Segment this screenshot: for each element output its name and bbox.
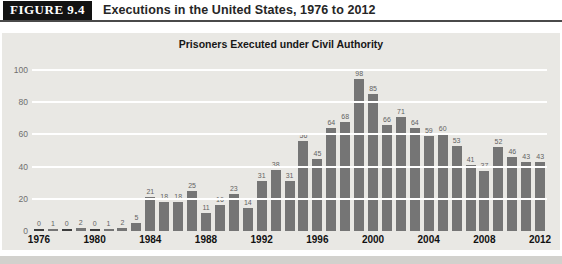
bar-value-label-1981: 1 bbox=[107, 220, 111, 228]
chart-panel: Prisoners Executed under Civil Authority… bbox=[2, 33, 560, 250]
bar-1979 bbox=[76, 228, 86, 231]
x-axis-tick-label-1980: 1980 bbox=[84, 234, 106, 245]
bar-value-label-1982: 2 bbox=[121, 219, 125, 227]
bar-2009 bbox=[493, 147, 503, 231]
bar-col-2002: 71 bbox=[394, 70, 408, 231]
figure-number-badge: FIGURE 9.4 bbox=[3, 1, 92, 20]
figure-title: Executions in the United States, 1976 to… bbox=[103, 3, 376, 17]
bar-1984 bbox=[145, 197, 155, 231]
bar-2008 bbox=[479, 171, 489, 231]
bar-col-1992: 31 bbox=[255, 70, 269, 231]
bar-value-label-1978: 0 bbox=[65, 220, 69, 228]
bar-2006 bbox=[452, 146, 462, 231]
bar-col-1987: 25 bbox=[185, 70, 199, 231]
y-axis-tick-label-60: 60 bbox=[2, 129, 28, 139]
x-axis-tick-label-1984: 1984 bbox=[139, 234, 161, 245]
bar-col-2003: 64 bbox=[408, 70, 422, 231]
bar-col-2000: 85 bbox=[366, 70, 380, 231]
bar-value-label-1999: 98 bbox=[355, 70, 363, 78]
bar-value-label-1998: 68 bbox=[341, 113, 349, 121]
bar-value-label-1991: 14 bbox=[244, 199, 252, 207]
bar-1994 bbox=[285, 181, 295, 231]
bar-col-1977: 1 bbox=[46, 70, 60, 231]
bar-col-1978: 0 bbox=[60, 70, 74, 231]
bar-col-2011: 43 bbox=[519, 70, 533, 231]
y-axis-tick-label-80: 80 bbox=[2, 97, 28, 107]
bar-col-2005: 60 bbox=[436, 70, 450, 231]
bar-1981 bbox=[104, 229, 114, 231]
bar-1989 bbox=[215, 205, 225, 231]
bar-1997 bbox=[326, 128, 336, 231]
chart-title: Prisoners Executed under Civil Authority bbox=[2, 38, 560, 50]
bar-col-1991: 14 bbox=[241, 70, 255, 231]
bar-1986 bbox=[173, 202, 183, 231]
bar-value-label-1990: 23 bbox=[230, 185, 238, 193]
bar-col-1993: 38 bbox=[269, 70, 283, 231]
bar-col-1985: 18 bbox=[157, 70, 171, 231]
bar-col-2008: 37 bbox=[478, 70, 492, 231]
bar-value-label-2009: 52 bbox=[494, 138, 502, 146]
bar-1996 bbox=[312, 159, 322, 231]
bar-value-label-1977: 1 bbox=[51, 220, 55, 228]
bar-col-2010: 46 bbox=[505, 70, 519, 231]
gridline-20 bbox=[32, 198, 547, 200]
bar-series: 0102012521181825111623143138315645646898… bbox=[32, 70, 547, 231]
bar-value-label-2012: 43 bbox=[536, 153, 544, 161]
gridline-40 bbox=[32, 166, 547, 168]
bar-1992 bbox=[257, 181, 267, 231]
bar-col-1999: 98 bbox=[352, 70, 366, 231]
bar-value-label-1992: 31 bbox=[258, 172, 266, 180]
bar-col-1994: 31 bbox=[283, 70, 297, 231]
bar-1993 bbox=[271, 170, 281, 231]
bar-value-label-2003: 64 bbox=[411, 119, 419, 127]
bar-2012 bbox=[535, 162, 545, 231]
gridline-60 bbox=[32, 133, 547, 135]
bar-1987 bbox=[187, 191, 197, 231]
bar-col-1998: 68 bbox=[338, 70, 352, 231]
bar-2000 bbox=[368, 94, 378, 231]
bar-col-1979: 2 bbox=[74, 70, 88, 231]
bar-value-label-2010: 46 bbox=[508, 148, 516, 156]
bar-1991 bbox=[243, 208, 253, 231]
bar-col-1980: 0 bbox=[88, 70, 102, 231]
bar-value-label-1994: 31 bbox=[286, 172, 294, 180]
bar-value-label-2002: 71 bbox=[397, 108, 405, 116]
bar-col-1982: 2 bbox=[116, 70, 130, 231]
x-axis-tick-label-1988: 1988 bbox=[195, 234, 217, 245]
bar-col-1988: 11 bbox=[199, 70, 213, 231]
bar-1976 bbox=[34, 229, 44, 231]
bar-value-label-1979: 2 bbox=[79, 219, 83, 227]
bar-value-label-1976: 0 bbox=[37, 220, 41, 228]
bar-col-1997: 64 bbox=[324, 70, 338, 231]
bar-1995 bbox=[298, 141, 308, 231]
bar-2004 bbox=[424, 136, 434, 231]
y-axis-tick-label-0: 0 bbox=[2, 226, 28, 236]
x-axis: 1976198019841988199219962000200420082012 bbox=[32, 234, 547, 250]
gridline-80 bbox=[32, 101, 547, 103]
bar-value-label-1983: 5 bbox=[134, 214, 138, 222]
bar-value-label-1980: 0 bbox=[93, 220, 97, 228]
bar-2003 bbox=[410, 128, 420, 231]
bar-value-label-2007: 41 bbox=[467, 156, 475, 164]
bar-col-1990: 23 bbox=[227, 70, 241, 231]
bar-col-1989: 16 bbox=[213, 70, 227, 231]
bar-col-1995: 56 bbox=[297, 70, 311, 231]
plot-area: 0102012521181825111623143138315645646898… bbox=[32, 70, 547, 231]
x-axis-tick-label-2000: 2000 bbox=[362, 234, 384, 245]
bar-value-label-2001: 66 bbox=[383, 116, 391, 124]
bar-col-2012: 43 bbox=[533, 70, 547, 231]
bar-1982 bbox=[117, 228, 127, 231]
bar-value-label-1996: 45 bbox=[314, 150, 322, 158]
bar-1998 bbox=[340, 122, 350, 231]
bar-2010 bbox=[507, 157, 517, 231]
bar-value-label-1984: 21 bbox=[146, 188, 154, 196]
bar-value-label-2011: 43 bbox=[522, 153, 530, 161]
y-axis-tick-label-40: 40 bbox=[2, 162, 28, 172]
bar-1983 bbox=[131, 223, 141, 231]
bar-value-label-1987: 25 bbox=[188, 182, 196, 190]
x-axis-tick-label-1992: 1992 bbox=[251, 234, 273, 245]
bar-col-2007: 41 bbox=[464, 70, 478, 231]
bar-col-2001: 66 bbox=[380, 70, 394, 231]
bar-col-1976: 0 bbox=[32, 70, 46, 231]
x-axis-tick-label-2004: 2004 bbox=[418, 234, 440, 245]
